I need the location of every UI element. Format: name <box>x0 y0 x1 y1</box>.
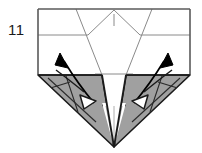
origami-figure: 11 <box>0 0 202 153</box>
origami-diagram-svg <box>0 0 202 153</box>
